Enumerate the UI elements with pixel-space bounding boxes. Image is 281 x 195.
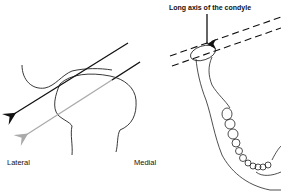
teeth xyxy=(222,108,281,170)
lateral-label: Lateral xyxy=(7,158,30,167)
condyle-axial-outline xyxy=(22,65,136,155)
projection-line-start xyxy=(112,62,140,80)
black-projection-arrow xyxy=(14,43,128,114)
long-axis-dashed-lines xyxy=(170,17,281,66)
mandible-outline xyxy=(188,42,281,190)
medial-label: Medial xyxy=(134,158,156,167)
long-axis-label: Long axis of the condyle xyxy=(169,4,251,11)
